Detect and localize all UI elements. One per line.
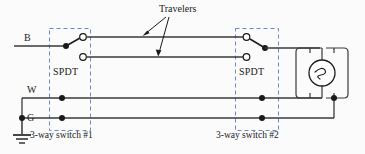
neutral-junction-switch-1 bbox=[59, 95, 65, 101]
ground-junction-switch-2 bbox=[259, 115, 265, 121]
wiring-diagram-canvas: B W G SPDT SPDT Travelers 3-way switch #… bbox=[0, 0, 365, 154]
switch-2-caption: 3-way switch #2 bbox=[216, 131, 279, 141]
fixture-ground-junction bbox=[331, 95, 337, 101]
traveler-callout-line-2 bbox=[159, 17, 169, 53]
switch-2-traveler-contact-upper[interactable] bbox=[243, 34, 250, 41]
switch-2-traveler-contact-lower[interactable] bbox=[243, 54, 250, 61]
traveler-callout-line-1 bbox=[145, 17, 166, 34]
traveler-callout-arrowhead-2 bbox=[156, 50, 162, 57]
ground-wire-label: G bbox=[27, 113, 34, 123]
lamp-globe bbox=[309, 60, 335, 86]
neutral-wire-label: W bbox=[27, 85, 36, 95]
neutral-junction-switch-2 bbox=[259, 95, 265, 101]
hot-wire-label: B bbox=[24, 33, 31, 43]
switch-2-type-label: SPDT bbox=[239, 67, 264, 77]
switch-1-blade[interactable] bbox=[66, 38, 80, 46]
switch-1-type-label: SPDT bbox=[53, 67, 78, 77]
travelers-callout-label: Travelers bbox=[159, 4, 196, 14]
switch-1-caption: 3-way switch #1 bbox=[30, 131, 93, 141]
ground-junction-switch-1 bbox=[59, 115, 65, 121]
switch-1-traveler-contact-upper[interactable] bbox=[80, 34, 87, 41]
switch-1-traveler-contact-lower[interactable] bbox=[80, 54, 87, 61]
